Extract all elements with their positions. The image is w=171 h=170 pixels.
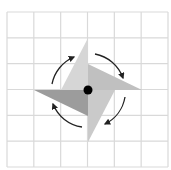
pinwheel-diagram — [0, 0, 171, 170]
blade-right — [88, 64, 142, 90]
blade-bottom — [88, 90, 115, 142]
center-point — [84, 86, 93, 95]
